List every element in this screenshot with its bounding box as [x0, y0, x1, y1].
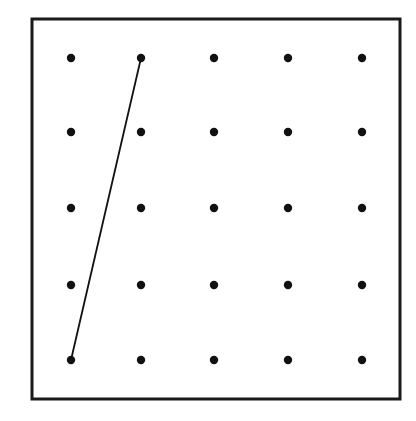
- grid-dot: [358, 204, 366, 212]
- grid-dot: [67, 281, 75, 289]
- grid-dot: [137, 128, 145, 136]
- grid-dot: [67, 54, 75, 62]
- grid-dot: [137, 356, 145, 364]
- grid-dot: [137, 281, 145, 289]
- grid-dot: [210, 54, 218, 62]
- grid-dot: [358, 54, 366, 62]
- grid-dot: [210, 204, 218, 212]
- grid-dot: [284, 204, 292, 212]
- grid-dot: [284, 281, 292, 289]
- grid-dot: [210, 356, 218, 364]
- grid-dot: [358, 356, 366, 364]
- grid-dot: [67, 356, 75, 364]
- grid-dot: [137, 204, 145, 212]
- grid-dot: [284, 54, 292, 62]
- geoboard-diagram: [0, 0, 416, 421]
- grid-dot: [358, 281, 366, 289]
- grid-dot: [210, 281, 218, 289]
- grid-dot: [67, 204, 75, 212]
- dot-grid: [67, 54, 366, 364]
- grid-dot: [358, 128, 366, 136]
- grid-dot: [284, 356, 292, 364]
- grid-dot: [210, 128, 218, 136]
- grid-dot: [67, 128, 75, 136]
- grid-dot: [137, 54, 145, 62]
- line-segment: [71, 58, 141, 360]
- grid-dot: [284, 128, 292, 136]
- line-segments: [71, 58, 141, 360]
